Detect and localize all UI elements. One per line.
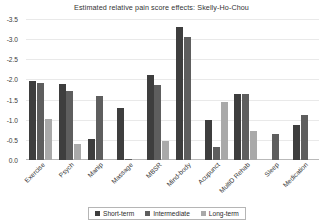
legend-entry[interactable]: Long-term	[201, 210, 239, 217]
y-axis-tick-label: -3.0	[0, 36, 18, 43]
chart-title: Estimated relative pain score effects: S…	[0, 3, 323, 12]
legend-swatch-icon	[201, 211, 206, 216]
y-axis-tick-label: -1.0	[0, 116, 18, 123]
legend-swatch-icon	[95, 211, 100, 216]
y-axis-tick-label: 0.0	[0, 157, 18, 164]
legend-entry[interactable]: Short-term	[95, 210, 134, 217]
bar-chart: Estimated relative pain score effects: S…	[0, 0, 323, 224]
y-axis-tick-label: -2.5	[0, 56, 18, 63]
legend-label: Intermediate	[153, 210, 190, 217]
y-axis-tick-label: -0.5	[0, 136, 18, 143]
legend: Short-termIntermediateLong-term	[88, 207, 246, 220]
legend-label: Long-term	[209, 210, 239, 217]
y-axis-tick-label: -3.5	[0, 16, 18, 23]
x-axis: ExercisePsychManipMassageMBSRMind-bodyAc…	[26, 161, 319, 205]
y-axis-tick-label: -1.5	[0, 96, 18, 103]
y-axis: 0.0-0.5-1.0-1.5-2.0-2.5-3.0-3.5	[26, 19, 319, 160]
legend-label: Short-term	[103, 210, 134, 217]
legend-entry[interactable]: Intermediate	[145, 210, 190, 217]
legend-swatch-icon	[145, 211, 150, 216]
y-axis-tick-label: -2.0	[0, 76, 18, 83]
